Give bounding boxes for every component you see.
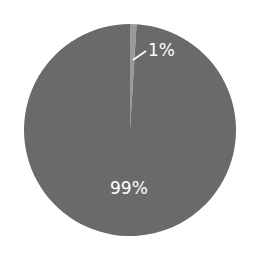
pie-slice-99pct <box>24 24 236 236</box>
label-1pct: 1% <box>148 40 175 60</box>
pie-chart: 1% 99% <box>0 0 258 261</box>
label-99pct: 99% <box>110 178 148 198</box>
pie-slices <box>24 24 236 236</box>
